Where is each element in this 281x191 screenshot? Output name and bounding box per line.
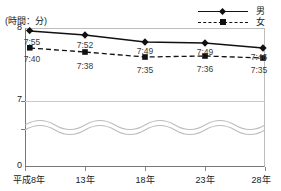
point-label-female-4: 7:35 (251, 65, 268, 75)
point-label-female-1: 7:38 (77, 61, 94, 71)
point-label-male-2: 7:49 (137, 46, 154, 56)
point-label-male-0: 7:55 (24, 37, 41, 47)
point-label-male-1: 7:52 (77, 40, 94, 50)
point-label-female-3: 7:36 (197, 64, 214, 74)
point-label-male-3: 7:49 (197, 47, 214, 57)
series-layer (0, 0, 281, 191)
point-label-female-0: 7:40 (24, 54, 41, 64)
point-label-female-2: 7:35 (137, 65, 154, 75)
axis-break-wave-icon (25, 121, 265, 135)
chart-container: (時間：分) 男 女 8 7 0 平成8年 13年 18年 23年 28年 (0, 0, 281, 191)
point-label-male-4: 7:46 (251, 52, 268, 62)
